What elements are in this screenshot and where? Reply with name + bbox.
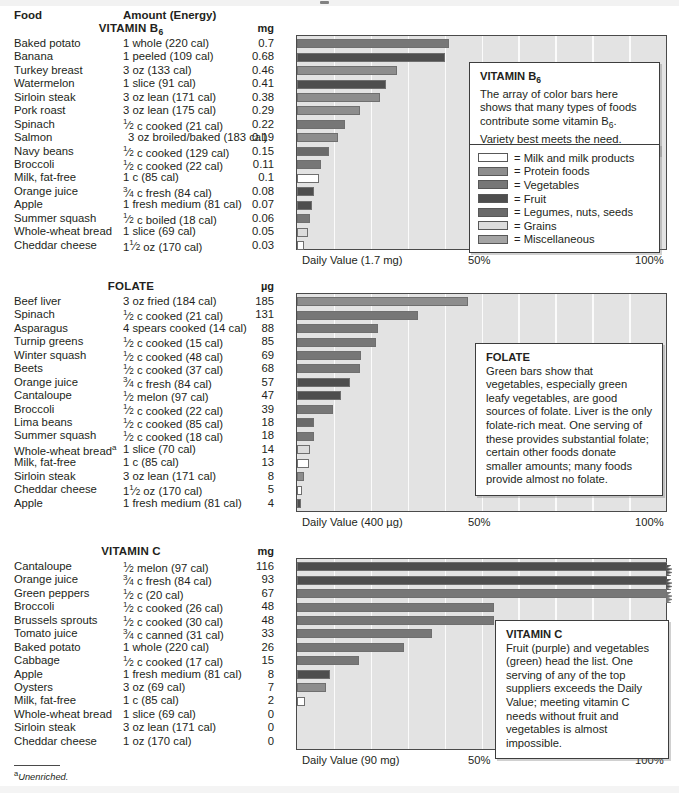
food-amount: 1 slice (91 cal) [123,77,196,89]
axis-tick-100: 100% [635,254,664,266]
food-name: Turkey breast [14,64,83,76]
nutrient-value: 116 [196,560,274,572]
food-name: Salmon [14,131,52,143]
food-amount: 1 c (85 cal) [123,171,179,183]
page-bottom-edge [0,786,679,793]
table-row: Asparagus4 spears cooked (14 cal)88 [0,322,296,335]
legend-label: = Milk and milk products [514,152,634,164]
nutrient-value: 0.7 [196,37,274,49]
table-row: Cantaloupe1⁄2 melon (97 cal)47 [0,389,296,402]
scan-artifact [320,1,329,4]
chart-bar [297,297,468,306]
axis-labels-b6: Daily Value (1.7 mg) 50% 100% [296,254,679,270]
nutrient-value: 39 [196,403,274,415]
table-row: Spinach1⁄2 c cooked (21 cal)131 [0,308,296,321]
footnote-text: aUnenriched. [14,772,68,782]
table-row: Orange juice3⁄4 c fresh (84 cal)93 [0,573,296,586]
chart-bar [297,589,667,598]
food-name: Cabbage [14,654,60,666]
table-row: Green peppers1⁄2 c (20 cal)67 [0,587,296,600]
chart-bar [297,643,404,652]
nutrient-value: 5 [196,483,274,495]
food-name: Cheddar cheese [14,735,97,747]
table-row: Sirloin steak3 oz lean (171 cal)0 [0,721,296,734]
food-name: Sirloin steak [14,91,76,103]
food-name: Navy beans [14,145,74,157]
chart-bar [297,418,314,427]
food-name: Green peppers [14,587,89,599]
nutrient-value: 0.03 [196,239,274,251]
legend-swatch [478,180,508,189]
legend-swatch [478,221,508,230]
nutrient-value: 93 [196,573,274,585]
callout-body: Green bars show that vegetables, especia… [486,365,653,487]
table-row: Cheddar cheese11⁄2 oz (170 cal)5 [0,483,296,496]
food-name: Lima beans [14,416,72,428]
nutrient-value: 0.07 [196,198,274,210]
chart-bar [297,228,308,237]
table-row: Turkey breast3 oz (133 cal)0.46 [0,64,296,77]
table-row: Orange juice3⁄4 c fresh (84 cal)57 [0,376,296,389]
legend-row: = Milk and milk products [478,151,651,165]
table-row: Beets1⁄2 c cooked (37 cal)68 [0,362,296,375]
callout-title: FOLATE [486,351,653,365]
chart-bar [297,616,494,625]
nutrient-value: 0 [196,735,274,747]
axis-label-daily-value: Daily Value (90 mg) [302,754,399,766]
nutrient-value: 2 [196,694,274,706]
table-row: Whole-wheat breada1 slice (70 cal)14 [0,443,296,456]
chart-bar [297,93,380,102]
nutrient-value: 57 [196,376,274,388]
table-row: Navy beans1⁄2 c cooked (129 cal)0.15 [0,145,296,158]
food-rows-b6: Baked potato1 whole (220 cal)0.7Banana1 … [0,37,296,252]
table-row: Broccoli1⁄2 c cooked (26 cal)48 [0,600,296,613]
legend-label: = Vegetables [514,179,579,191]
food-name: Brussels sprouts [14,614,98,626]
chart-bar [297,133,338,142]
table-row: Sirloin steak3 oz lean (171 cal)0.38 [0,91,296,104]
legend-swatch [478,235,508,244]
axis-label-daily-value: Daily Value (1.7 mg) [302,254,403,266]
footnote-rule [14,765,60,766]
callout-body: The array of color bars here shows that … [480,88,650,147]
callout-vitamin-c: VITAMIN C Fruit (purple) and vegetables … [495,620,669,759]
food-amount: 1 c (85 cal) [123,694,179,706]
chart-bar [297,338,376,347]
nutrient-value: 131 [196,308,274,320]
nutrient-value: 0.38 [196,91,274,103]
nutrient-value: 4 [196,497,274,509]
food-name: Spinach [14,308,55,320]
nutrient-value: 48 [196,614,274,626]
legend-row: = Miscellaneous [478,233,651,247]
food-name: Broccoli [14,600,54,612]
chart-bar [297,391,341,400]
chart-bar [297,656,359,665]
nutrient-value: 0.08 [196,185,274,197]
food-name: Apple [14,497,43,509]
table-row: Milk, fat-free1 c (85 cal)0.1 [0,171,296,184]
chart-bar [297,432,314,441]
food-name: Watermelon [14,77,74,89]
table-row: Broccoli1⁄2 c cooked (22 cal)0.11 [0,158,296,171]
legend-row: = Fruit [478,192,651,206]
table-row: Milk, fat-free1 c (85 cal)2 [0,694,296,707]
chart-bar [297,147,329,156]
nutrient-value: 0 [196,721,274,733]
nutrient-value: 14 [196,443,274,455]
food-name: Orange juice [14,185,78,197]
food-name: Whole-wheat bread [14,225,112,237]
chart-bar [297,405,333,414]
table-row: Whole-wheat bread1 slice (69 cal)0.05 [0,225,296,238]
food-name: Asparagus [14,322,68,334]
nutrient-value: 0.22 [196,118,274,130]
chart-bar [297,311,418,320]
legend-swatch [478,208,508,217]
table-row: Brussels sprouts1⁄2 c cooked (30 cal)48 [0,614,296,627]
nutrient-value: 68 [196,362,274,374]
food-amount: 1 slice (70 cal) [123,443,196,455]
food-amount: 1⁄2 c (20 cal) [123,587,184,601]
food-name: Summer squash [14,212,96,224]
legend-row: = Legumes, nuts, seeds [478,205,651,219]
table-row: Cantaloupe1⁄2 melon (97 cal)116 [0,560,296,573]
food-rows-folate: Beef liver3 oz fried (184 cal)185Spinach… [0,295,296,510]
